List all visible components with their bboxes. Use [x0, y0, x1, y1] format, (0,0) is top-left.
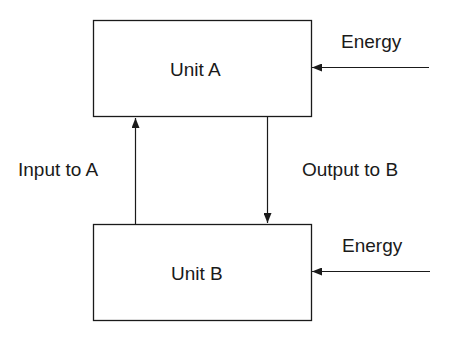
energy-a-label: Energy	[341, 32, 401, 51]
unit-b-label: Unit B	[171, 264, 223, 283]
energy-b-label: Energy	[342, 236, 402, 255]
input-to-a-label: Input to A	[18, 160, 98, 179]
output-to-b-label: Output to B	[302, 160, 398, 179]
unit-a-label: Unit A	[170, 60, 221, 79]
